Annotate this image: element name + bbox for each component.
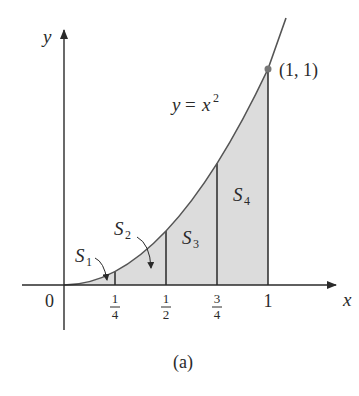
svg-text:2: 2 (163, 307, 170, 322)
tick-label-half: 1 2 (161, 291, 171, 322)
svg-text:=: = (185, 94, 196, 115)
svg-text:4: 4 (244, 194, 250, 208)
curve-label: y = x 2 (170, 91, 219, 115)
svg-text:S: S (233, 184, 243, 205)
x-axis-label: x (342, 289, 352, 310)
figure-caption: (a) (173, 352, 193, 373)
svg-text:4: 4 (112, 307, 119, 322)
figure-canvas: y x 0 y = x 2 (1, 1) S 1 S 2 S 3 S 4 1 4… (0, 0, 359, 396)
point-label: (1, 1) (279, 60, 318, 81)
origin-label: 0 (45, 291, 54, 311)
y-axis-label: y (41, 26, 52, 47)
svg-text:S: S (114, 218, 124, 239)
svg-text:x: x (201, 94, 211, 115)
svg-text:S: S (182, 227, 192, 248)
svg-text:3: 3 (193, 237, 199, 251)
tick-label-one: 1 (264, 291, 273, 311)
strip-label-s2: S 2 (114, 218, 131, 242)
svg-text:y: y (170, 94, 181, 115)
svg-text:2: 2 (213, 91, 219, 105)
svg-text:2: 2 (125, 228, 131, 242)
tick-label-three-quarters: 3 4 (212, 291, 222, 322)
svg-text:1: 1 (112, 291, 119, 306)
strip-label-s1: S 1 (75, 245, 92, 269)
svg-text:S: S (75, 245, 85, 266)
tick-label-quarter: 1 4 (110, 291, 120, 322)
svg-text:1: 1 (163, 291, 170, 306)
svg-text:1: 1 (86, 255, 92, 269)
point-one-one (265, 66, 272, 73)
svg-text:3: 3 (214, 291, 221, 306)
svg-text:4: 4 (214, 307, 221, 322)
